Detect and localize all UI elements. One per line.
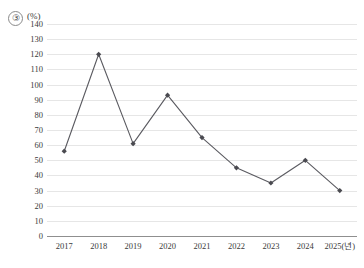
x-axis-tick-label: 2025(년) bbox=[324, 242, 355, 251]
item-number-badge: ③ bbox=[8, 11, 23, 26]
chart-figure: ③ (%) 0102030405060708090100110120130140… bbox=[0, 0, 364, 268]
line-series bbox=[47, 24, 357, 236]
x-axis-tick-label: 2024 bbox=[297, 242, 314, 251]
x-axis-tick-label: 2023 bbox=[262, 242, 279, 251]
gridline bbox=[47, 236, 357, 237]
series-data-point bbox=[96, 52, 101, 57]
x-axis-tick-label: 2020 bbox=[159, 242, 176, 251]
y-axis-tick-label: 100 bbox=[30, 80, 43, 89]
x-axis-tick-label: 2021 bbox=[194, 242, 211, 251]
y-axis-tick-label: 40 bbox=[35, 171, 44, 180]
y-axis-tick-label: 130 bbox=[30, 35, 43, 44]
y-axis-tick-label: 80 bbox=[35, 111, 44, 120]
x-axis-tick-label: 2018 bbox=[90, 242, 107, 251]
y-axis-tick-label: 140 bbox=[30, 20, 43, 29]
y-axis-tick-label: 120 bbox=[30, 50, 43, 59]
series-line-path bbox=[64, 54, 340, 190]
x-axis-tick-label: 2017 bbox=[56, 242, 73, 251]
x-axis-tick-label: 2019 bbox=[125, 242, 142, 251]
y-axis-tick-label: 20 bbox=[35, 201, 44, 210]
series-data-point bbox=[62, 149, 67, 154]
y-axis-tick-label: 0 bbox=[39, 232, 43, 241]
y-axis-tick-label: 50 bbox=[35, 156, 44, 165]
y-axis-tick-label: 110 bbox=[31, 65, 43, 74]
plot-area: 0102030405060708090100110120130140 20172… bbox=[47, 24, 357, 236]
y-axis-tick-label: 30 bbox=[35, 186, 44, 195]
y-axis-tick-label: 60 bbox=[35, 141, 44, 150]
y-axis-tick-label: 90 bbox=[35, 95, 44, 104]
y-axis-tick-label: 10 bbox=[35, 217, 44, 226]
x-axis-tick-label: 2022 bbox=[228, 242, 245, 251]
y-axis-tick-label: 70 bbox=[35, 126, 44, 135]
